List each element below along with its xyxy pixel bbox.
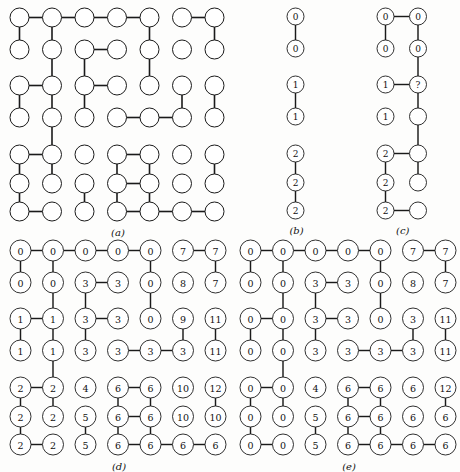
- node[interactable]: 11: [435, 308, 456, 329]
- node[interactable]: 0: [10, 272, 31, 293]
- node[interactable]: 1: [377, 108, 394, 125]
- node[interactable]: 0: [140, 308, 161, 329]
- node[interactable]: 0: [287, 40, 304, 57]
- node[interactable]: 3: [305, 308, 326, 329]
- node[interactable]: [108, 8, 127, 27]
- node[interactable]: 0: [43, 272, 64, 293]
- node[interactable]: 3: [140, 340, 161, 361]
- node[interactable]: [205, 145, 224, 164]
- node[interactable]: [140, 76, 159, 95]
- node[interactable]: 3: [305, 272, 326, 293]
- node[interactable]: 0: [43, 240, 64, 261]
- node[interactable]: [108, 202, 127, 221]
- node[interactable]: 0: [377, 40, 394, 57]
- node[interactable]: 0: [240, 272, 261, 293]
- node[interactable]: 7: [205, 240, 226, 261]
- node[interactable]: 0: [410, 40, 427, 57]
- node[interactable]: 0: [370, 308, 391, 329]
- node[interactable]: [140, 202, 159, 221]
- node[interactable]: [173, 76, 192, 95]
- node[interactable]: [205, 108, 224, 127]
- node[interactable]: 0: [273, 272, 294, 293]
- node[interactable]: 2: [287, 145, 304, 162]
- node[interactable]: 3: [305, 340, 326, 361]
- node[interactable]: 9: [173, 308, 194, 329]
- node[interactable]: 3: [403, 340, 424, 361]
- node[interactable]: 1: [43, 308, 64, 329]
- node[interactable]: [205, 76, 224, 95]
- node[interactable]: 6: [140, 434, 161, 455]
- node[interactable]: [173, 8, 192, 27]
- node[interactable]: 2: [287, 202, 304, 219]
- node[interactable]: 2: [43, 434, 64, 455]
- node[interactable]: 2: [377, 145, 394, 162]
- node[interactable]: [108, 76, 127, 95]
- node[interactable]: 2: [10, 406, 31, 427]
- node[interactable]: 7: [173, 240, 194, 261]
- node[interactable]: 2: [10, 434, 31, 455]
- node[interactable]: [205, 174, 224, 193]
- node[interactable]: [410, 145, 427, 162]
- node[interactable]: 10: [173, 406, 194, 427]
- node[interactable]: 12: [435, 377, 456, 398]
- node[interactable]: 3: [108, 272, 129, 293]
- node[interactable]: 6: [370, 377, 391, 398]
- node[interactable]: 0: [10, 240, 31, 261]
- node[interactable]: [173, 40, 192, 59]
- node[interactable]: 0: [273, 240, 294, 261]
- node[interactable]: 3: [75, 272, 96, 293]
- node[interactable]: 3: [338, 308, 359, 329]
- node[interactable]: 3: [338, 272, 359, 293]
- node[interactable]: [108, 174, 127, 193]
- node[interactable]: [10, 174, 29, 193]
- node[interactable]: 1: [10, 340, 31, 361]
- node[interactable]: [410, 202, 427, 219]
- node[interactable]: 11: [205, 340, 226, 361]
- node[interactable]: 0: [240, 240, 261, 261]
- node[interactable]: [140, 145, 159, 164]
- node[interactable]: 1: [287, 108, 304, 125]
- node[interactable]: 2: [377, 202, 394, 219]
- node[interactable]: 0: [140, 272, 161, 293]
- node[interactable]: 0: [370, 272, 391, 293]
- node[interactable]: ?: [410, 76, 427, 93]
- node[interactable]: 6: [140, 406, 161, 427]
- node[interactable]: [108, 108, 127, 127]
- node[interactable]: 5: [75, 434, 96, 455]
- node[interactable]: 6: [140, 377, 161, 398]
- node[interactable]: [10, 76, 29, 95]
- node[interactable]: [205, 40, 224, 59]
- node[interactable]: 0: [240, 406, 261, 427]
- node[interactable]: 3: [75, 340, 96, 361]
- node[interactable]: [43, 145, 62, 164]
- node[interactable]: 6: [338, 377, 359, 398]
- node[interactable]: 2: [377, 174, 394, 191]
- node[interactable]: 2: [10, 377, 31, 398]
- node[interactable]: 0: [75, 240, 96, 261]
- node[interactable]: [43, 76, 62, 95]
- node[interactable]: [205, 202, 224, 221]
- node[interactable]: 2: [43, 377, 64, 398]
- node[interactable]: [140, 8, 159, 27]
- node[interactable]: 6: [338, 406, 359, 427]
- node[interactable]: 0: [140, 240, 161, 261]
- node[interactable]: 0: [240, 340, 261, 361]
- node[interactable]: 2: [43, 406, 64, 427]
- node[interactable]: 0: [370, 240, 391, 261]
- node[interactable]: 5: [75, 406, 96, 427]
- node[interactable]: 0: [377, 8, 394, 25]
- node[interactable]: [173, 145, 192, 164]
- node[interactable]: [410, 108, 427, 125]
- node[interactable]: [75, 40, 94, 59]
- node[interactable]: 1: [10, 308, 31, 329]
- node[interactable]: [43, 202, 62, 221]
- node[interactable]: 4: [75, 377, 96, 398]
- node[interactable]: 0: [273, 377, 294, 398]
- node[interactable]: 3: [338, 340, 359, 361]
- node[interactable]: 1: [43, 340, 64, 361]
- node[interactable]: 0: [273, 340, 294, 361]
- node[interactable]: 0: [305, 240, 326, 261]
- node[interactable]: [10, 108, 29, 127]
- node[interactable]: 3: [75, 308, 96, 329]
- node[interactable]: 0: [287, 8, 304, 25]
